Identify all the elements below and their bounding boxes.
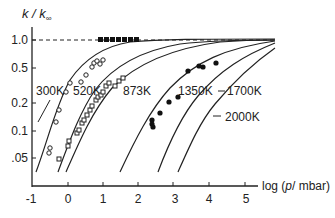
x-tick-labels: -1 0 1 2 3 4 5 xyxy=(26,192,250,206)
svg-text:5: 5 xyxy=(243,192,250,206)
temperature-labels: 300K 520K 873K 1350K 1700K 2000K xyxy=(36,84,262,124)
svg-text:.05: .05 xyxy=(11,151,28,165)
svg-text:-1: -1 xyxy=(26,192,37,206)
label-873K: 873K xyxy=(123,84,151,98)
svg-text:2: 2 xyxy=(135,192,142,206)
svg-text:3: 3 xyxy=(172,192,179,206)
label-2000K: 2000K xyxy=(225,110,260,124)
label-300K: 300K xyxy=(36,84,64,98)
curve-1350K xyxy=(120,41,275,172)
series-873K-points xyxy=(98,37,139,42)
falloff-curves xyxy=(36,39,275,172)
label-1700K: 1700K xyxy=(227,84,262,98)
svg-text:0.1: 0.1 xyxy=(11,124,28,138)
label-1350K: 1350K xyxy=(178,84,213,98)
falloff-chart: k / k∞ 1.0 0.5 0.2 0.1 .05 -1 0 1 2 3 4 … xyxy=(0,0,335,218)
svg-text:4: 4 xyxy=(206,192,213,206)
y-axis-label: k / k∞ xyxy=(22,6,52,23)
svg-text:0.5: 0.5 xyxy=(11,61,28,75)
x-axis-label: log (p/ mbar) xyxy=(262,179,330,193)
svg-text:0: 0 xyxy=(65,192,72,206)
svg-text:1: 1 xyxy=(100,192,107,206)
y-tick-labels: 1.0 0.5 0.2 0.1 .05 xyxy=(11,33,28,165)
svg-text:1.0: 1.0 xyxy=(11,33,28,47)
svg-text:0.2: 0.2 xyxy=(11,96,28,110)
